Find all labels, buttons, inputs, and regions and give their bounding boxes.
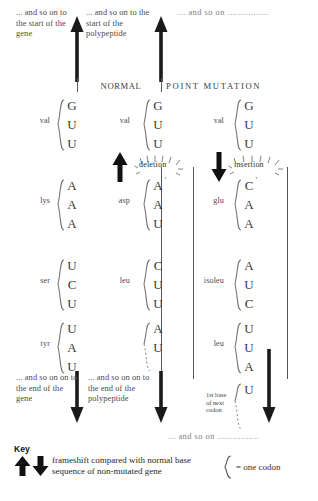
- base-letter: U: [150, 118, 166, 131]
- key-codon-brace-icon: [222, 455, 232, 479]
- deletion-label: deletion: [139, 160, 166, 169]
- base-letter: C: [150, 259, 166, 272]
- base-letter: U: [241, 383, 257, 396]
- key-down-arrow-icon: [32, 456, 49, 476]
- base-letter: U: [241, 322, 257, 335]
- header-normal: NORMAL: [90, 81, 152, 91]
- note-polypeptide-end: ... and so on on to the end of the polyp…: [88, 373, 154, 405]
- base-letter: U: [150, 297, 166, 310]
- amino-acid-label: ser: [24, 276, 50, 285]
- note-bottom-right-and-so-on: ... and so on ................: [168, 432, 313, 443]
- base-letter: C: [241, 297, 257, 310]
- base-letter: U: [64, 259, 80, 272]
- amino-acid-label: leu: [104, 276, 130, 285]
- key-up-arrow-icon: [14, 456, 31, 476]
- base-letter: G: [150, 99, 166, 112]
- divider-insertion-right: [287, 167, 288, 379]
- base-letter: A: [241, 198, 257, 211]
- header-point-mutation: POINT MUTATION: [166, 81, 306, 91]
- base-letter: A: [64, 217, 80, 230]
- frameshift-up-arrow-polypeptide: [154, 16, 168, 82]
- base-letter: U: [64, 297, 80, 310]
- amino-acid-label: val: [198, 116, 224, 125]
- key-codon-label: = one codon: [236, 462, 281, 472]
- amino-acid-label: glu: [198, 196, 224, 205]
- base-letter: U: [150, 341, 166, 354]
- amino-acid-label: lys: [24, 196, 50, 205]
- divider-normal-left: [77, 78, 78, 92]
- amino-acid-label: isoleu: [192, 276, 224, 285]
- frameshift-up-arrow-deletion: [112, 152, 128, 182]
- insertion-prime-mark: ’: [255, 176, 258, 185]
- amino-acid-label: val: [104, 116, 130, 125]
- frameshift-down-arrow-mutation: [262, 349, 276, 423]
- base-letter: U: [150, 137, 166, 150]
- note-polypeptide-start: ... and so on to the start of the polype…: [86, 8, 152, 40]
- base-letter: A: [241, 360, 257, 373]
- base-letter: A: [150, 322, 166, 335]
- frameshift-down-arrow-insertion: [211, 152, 227, 182]
- amino-acid-label: leu: [194, 339, 224, 348]
- base-letter: A: [64, 341, 80, 354]
- insertion-label: insertion: [234, 160, 264, 169]
- base-letter: U: [150, 278, 166, 291]
- note-gene-end: ... and so on on to the end of the gene: [16, 373, 78, 405]
- base-letter: U: [241, 341, 257, 354]
- note-top-right-and-so-on: ... and so on ................: [178, 8, 313, 19]
- base-letter: U: [241, 278, 257, 291]
- base-letter: A: [64, 179, 80, 192]
- deletion-prime-mark: ’: [164, 176, 167, 185]
- base-letter: C: [64, 278, 80, 291]
- amino-acid-label: tyr: [24, 339, 50, 348]
- base-letter: A: [241, 217, 257, 230]
- base-letter: G: [241, 99, 257, 112]
- note-gene-start: ... and so on to the start of the gene: [16, 8, 78, 40]
- amino-acid-label: val: [24, 116, 50, 125]
- base-letter: U: [150, 217, 166, 230]
- base-letter: U: [64, 322, 80, 335]
- base-letter: G: [64, 99, 80, 112]
- key-frameshift-text: frameshift compared with normal base seq…: [52, 455, 216, 477]
- key-title: Key: [14, 444, 30, 454]
- base-letter: A: [150, 198, 166, 211]
- divider-normal-right: [161, 78, 162, 92]
- base-letter: A: [241, 259, 257, 272]
- next-codon-note: 1st base of next codon: [206, 391, 232, 414]
- base-letter: U: [64, 118, 80, 131]
- frameshift-up-arrow-gene: [70, 16, 84, 82]
- base-letter: U: [241, 118, 257, 131]
- frameshift-down-arrow-polypeptide: [154, 371, 168, 423]
- base-letter: A: [64, 198, 80, 211]
- base-letter: U: [64, 137, 80, 150]
- amino-acid-label: asp: [104, 196, 130, 205]
- base-letter: U: [241, 137, 257, 150]
